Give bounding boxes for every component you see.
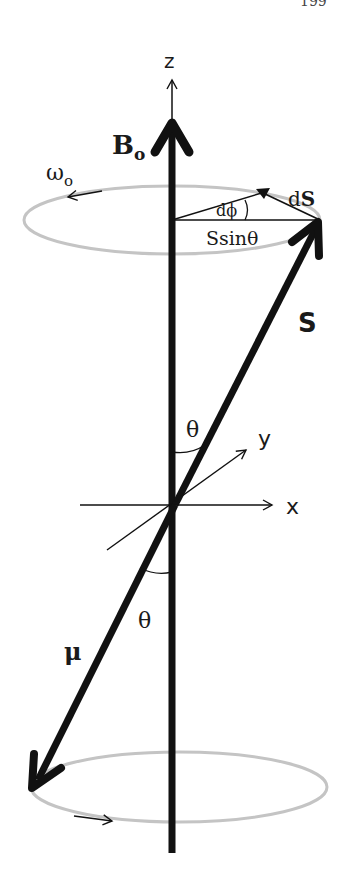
b-field-label: Bo	[112, 130, 145, 164]
upper-theta-label: θ	[186, 417, 199, 442]
magnetic-moment-label: μ	[64, 637, 82, 666]
lower-precession-orbit	[31, 752, 327, 822]
spin-vector	[175, 228, 316, 505]
dphi-angle-arc	[245, 200, 248, 220]
z-axis-label: z	[164, 49, 175, 73]
precession-diagram: 199 z Bo ωo dϕ dS Ssinθ S θ x y μ θ	[0, 0, 348, 889]
y-axis-label: y	[258, 426, 271, 451]
magnetic-moment-vector	[38, 505, 175, 780]
ds-label: dS	[288, 187, 315, 211]
lower-theta-label: θ	[138, 608, 151, 633]
x-axis-label: x	[286, 494, 299, 519]
y-axis-arrow	[107, 450, 246, 550]
radius-label: Ssinθ	[206, 227, 259, 249]
dphi-label: dϕ	[216, 201, 237, 220]
page-number: 199	[300, 0, 327, 9]
spin-vector-label: S	[298, 308, 317, 338]
angular-velocity-label: ωo	[46, 160, 73, 190]
